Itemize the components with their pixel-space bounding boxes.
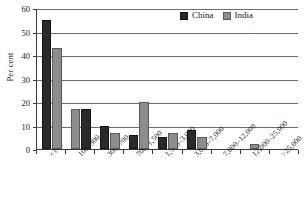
bar-china: [187, 130, 197, 149]
bar-china: [100, 126, 110, 150]
bar-china: [129, 135, 139, 149]
bar-india: [52, 48, 62, 149]
bar-china: [81, 109, 91, 149]
bar-group: [95, 9, 124, 149]
bar-group: [66, 9, 95, 149]
bar-india: [168, 133, 178, 149]
y-tick-label-20: 20: [8, 99, 30, 108]
y-tick-label-60: 60: [8, 5, 30, 14]
bar-china: [42, 20, 52, 149]
x-axis-labels: <100100–300300–700700–1,5001,500–3,0003,…: [36, 152, 298, 218]
legend-item-india: India: [223, 11, 254, 20]
legend-label-china: China: [192, 11, 214, 20]
y-tick-label-0: 0: [8, 146, 30, 155]
y-tick-label-10: 10: [8, 123, 30, 132]
x-tick-mark: [298, 150, 299, 154]
bar-chart: Per cent 0102030405060 <100100–300300–70…: [0, 0, 306, 218]
bar-group: [124, 9, 153, 149]
bar-groups: [37, 9, 298, 149]
bar-india: [197, 137, 207, 149]
china-swatch: [180, 12, 188, 20]
legend-label-india: India: [235, 11, 254, 20]
bar-india: [250, 144, 260, 149]
bar-india: [110, 133, 120, 149]
bar-china: [158, 137, 168, 149]
bar-group: [37, 9, 66, 149]
y-axis-title: Per cent: [5, 35, 15, 99]
y-tick-label-40: 40: [8, 52, 30, 61]
bar-india: [71, 109, 81, 149]
plot-area: [36, 9, 298, 150]
y-tick-label-30: 30: [8, 76, 30, 85]
legend-item-china: China: [180, 11, 214, 20]
india-swatch: [223, 12, 231, 20]
bar-india: [139, 102, 149, 149]
y-tick-label-50: 50: [8, 29, 30, 38]
chart-legend: China India: [178, 10, 255, 21]
